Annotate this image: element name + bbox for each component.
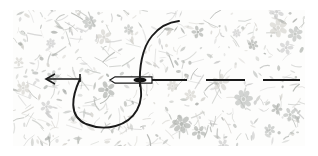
stitch-illustration (0, 0, 318, 156)
illustration-canvas (0, 0, 318, 156)
sewing-needle (110, 77, 152, 83)
